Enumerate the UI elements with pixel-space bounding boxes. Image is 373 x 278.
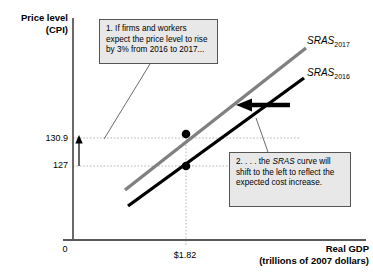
callout-2-leader (256, 118, 268, 152)
price-rise-arrow-up (75, 135, 82, 166)
origin-label: 0 (58, 244, 72, 254)
callout-box-2: 2. . . . the SRAS curve will shift to th… (229, 152, 351, 207)
x-axis-title-line2: (trillions of 2007 dollars) (233, 255, 369, 267)
sras-2017-label-year: 2017 (334, 41, 350, 48)
point-sras-2016 (182, 162, 191, 171)
y-tick-label-130-9: 130.9 (18, 133, 68, 143)
point-sras-2017 (182, 130, 191, 139)
x-axis-title-line1: Real GDP (233, 243, 369, 255)
y-axis-title-line1: Price level (4, 12, 68, 24)
callout-2-text-italic: SRAS (272, 157, 294, 166)
sras-2017-label-text: SRAS (307, 35, 334, 46)
x-axis-title: Real GDP (trillions of 2007 dollars) (233, 243, 369, 267)
y-tick-label-127: 127 (18, 160, 68, 170)
sras-shift-diagram: Price level (CPI) Real GDP (trillions of… (0, 0, 373, 278)
sras-2017-label: SRAS2017 (307, 35, 350, 48)
y-axis-title: Price level (CPI) (4, 12, 68, 36)
x-tick-label-1-82: $1.82 (157, 250, 213, 260)
sras-2016-label: SRAS2016 (307, 67, 350, 80)
sras-2016-label-text: SRAS (307, 67, 334, 78)
callout-1-leader (104, 64, 150, 139)
y-axis-title-line2: (CPI) (4, 24, 68, 36)
callout-box-1: 1. If firms and workers expect the price… (99, 19, 218, 64)
sras-2016-label-year: 2016 (334, 73, 350, 80)
callout-2-text-part-1: 2. . . . the (236, 157, 272, 166)
